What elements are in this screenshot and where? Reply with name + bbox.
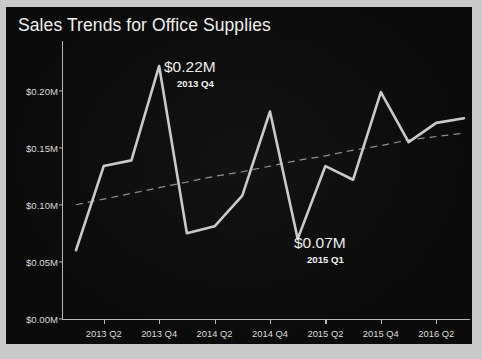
plot-area: [6, 7, 472, 344]
annotation-peak-period: 2013 Q4: [177, 78, 216, 89]
annotation-peak-value: $0.22M: [164, 59, 216, 75]
annotation-low: $0.07M 2015 Q1: [294, 235, 346, 265]
chart-panel: Sales Trends for Office Supplies $0.00M$…: [6, 7, 472, 344]
annotation-peak: $0.22M 2013 Q4: [164, 59, 216, 89]
sales-line: [76, 66, 464, 250]
annotation-low-value: $0.07M: [294, 235, 346, 251]
annotation-low-period: 2015 Q1: [307, 254, 346, 265]
trend-line: [76, 133, 464, 205]
screenshot-root: Sales Trends for Office Supplies $0.00M$…: [0, 0, 482, 359]
